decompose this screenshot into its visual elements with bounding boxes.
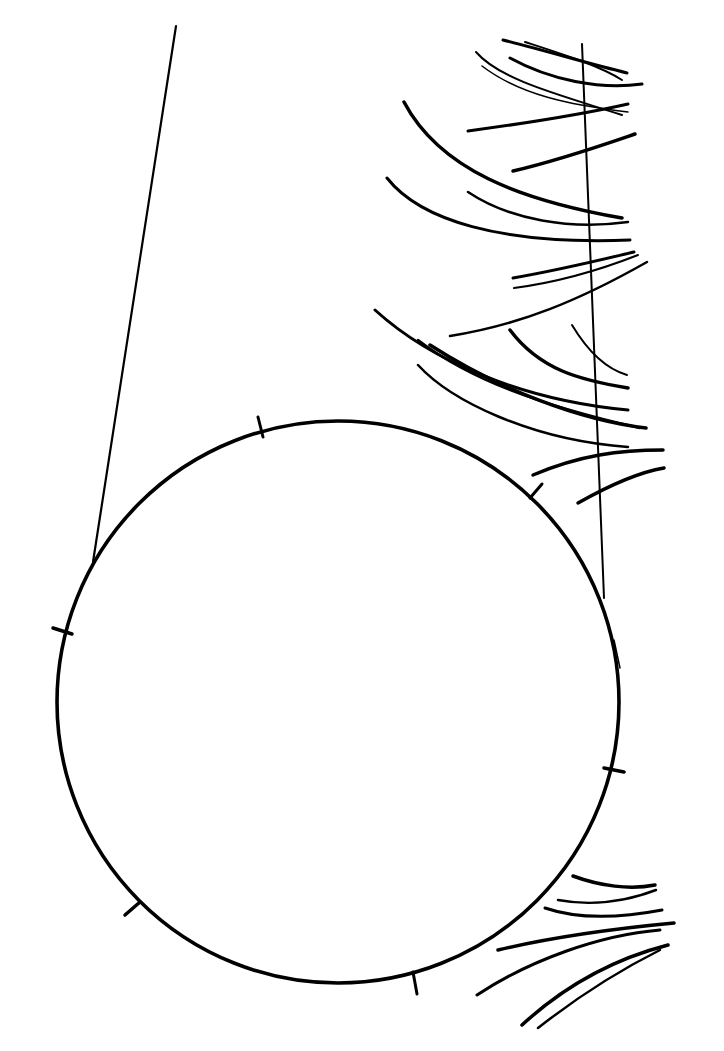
tick-mark [530,484,542,498]
lower-right-feather-strokes [477,876,674,1028]
tick-mark [125,902,140,915]
tick-mark [413,972,417,994]
sketch-canvas [0,0,724,1051]
tick-mark [53,628,72,634]
line-drawing [0,0,724,1051]
tick-mark [604,768,624,772]
right-vertical-line [582,44,604,598]
circle-shape [53,417,624,994]
